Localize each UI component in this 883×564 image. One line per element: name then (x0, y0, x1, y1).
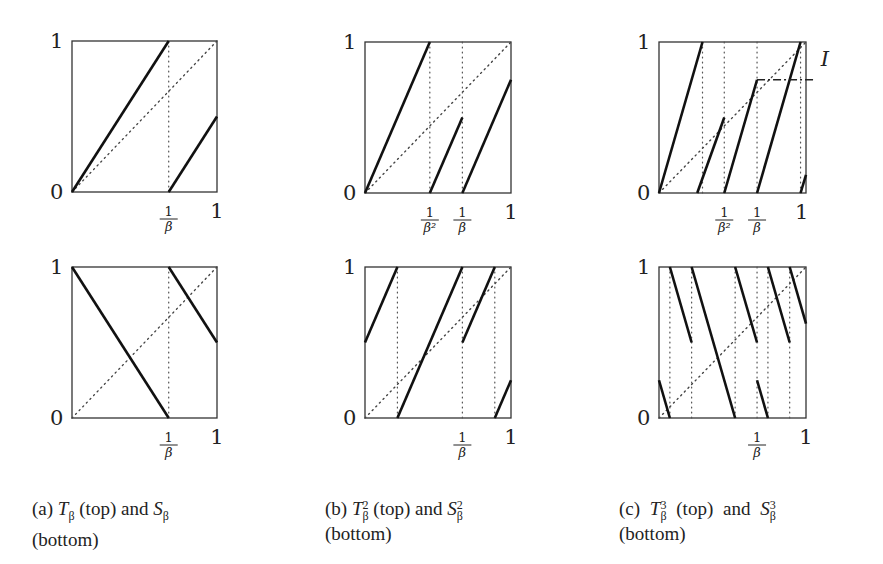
x-tick-label: 1 (795, 200, 808, 224)
caption-tag: (b) (325, 498, 347, 519)
caption-subscript: β (163, 509, 169, 523)
x-tick-fraction: 1β (160, 430, 178, 460)
x-tick-numerator: 1 (753, 430, 761, 445)
caption-c: (c) T3β (top) and S3β (bottom) (619, 497, 859, 546)
caption-subscript: β (457, 511, 463, 522)
plot-c-bottom: 011β1 (637, 255, 813, 460)
map-branch (670, 267, 692, 343)
y-tick-label: 1 (343, 255, 356, 279)
caption-tag: (c) (619, 498, 640, 519)
map-branch (724, 80, 757, 193)
figure-canvas: 011β1011β²1β1I011β²1β1011β1011β1011β1 (0, 0, 883, 470)
plot-c-top: I011β²1β1 (637, 30, 830, 235)
interval-label: I (820, 47, 830, 71)
x-tick-label: 1 (504, 200, 517, 224)
y-tick-label: 1 (50, 29, 63, 53)
map-branch (801, 175, 806, 193)
caption-subscript: β (660, 511, 666, 522)
identity-diagonal (72, 267, 217, 418)
x-tick-numerator: 1 (165, 204, 173, 219)
x-tick-fraction: 1β (453, 205, 471, 235)
map-branch (692, 267, 736, 418)
map-branch (397, 267, 462, 418)
identity-diagonal (72, 41, 217, 192)
map-branch (757, 42, 801, 193)
caption-text: (bottom) (32, 529, 99, 550)
y-tick-label: 1 (343, 30, 356, 54)
x-tick-denominator: β (752, 445, 761, 460)
x-tick-denominator: β (164, 219, 173, 234)
map-branch (768, 267, 790, 343)
y-tick-label: 1 (50, 255, 63, 279)
x-tick-denominator: β² (717, 220, 731, 235)
map-branch (72, 41, 169, 192)
x-tick-numerator: 1 (720, 205, 728, 220)
map-branch (72, 267, 169, 418)
x-tick-denominator: β² (422, 220, 436, 235)
map-branch (169, 267, 217, 343)
x-tick-fraction: 1β (160, 204, 178, 234)
x-tick-label: 1 (504, 425, 517, 449)
caption-subscript: β (68, 509, 74, 523)
y-tick-label: 0 (50, 406, 63, 430)
caption-text: (top) and (676, 498, 750, 519)
y-tick-label: 0 (343, 406, 356, 430)
x-tick-label: 1 (799, 425, 812, 449)
y-tick-label: 1 (637, 30, 650, 54)
caption-text: (top) and (79, 498, 148, 519)
map-branch (462, 80, 511, 193)
caption-subscript: β (770, 511, 776, 522)
x-tick-denominator: β (458, 220, 467, 235)
plot-a-top: 011β1 (50, 29, 224, 234)
plot-b-bottom: 011β1 (343, 255, 518, 460)
identity-diagonal (365, 42, 511, 193)
x-tick-fraction: 1β² (421, 205, 439, 235)
caption-symbol: T (58, 498, 69, 519)
x-tick-fraction: 1β² (715, 205, 733, 235)
y-tick-label: 0 (637, 181, 650, 205)
x-tick-label: 1 (210, 199, 223, 223)
x-tick-fraction: 1β (748, 430, 766, 460)
caption-tag: (a) (32, 498, 53, 519)
plots-group: 011β1011β²1β1I011β²1β1011β1011β1011β1 (50, 29, 830, 460)
y-tick-label: 0 (637, 406, 650, 430)
x-tick-denominator: β (752, 220, 761, 235)
x-tick-numerator: 1 (753, 205, 761, 220)
y-tick-label: 1 (637, 255, 650, 279)
x-tick-numerator: 1 (165, 430, 173, 445)
x-tick-numerator: 1 (458, 205, 466, 220)
map-branch (462, 267, 494, 343)
map-branch (735, 267, 757, 343)
map-branch (697, 118, 724, 194)
caption-text: (top) and (373, 498, 442, 519)
y-tick-label: 0 (343, 181, 356, 205)
map-branch (365, 267, 397, 343)
x-tick-numerator: 1 (426, 205, 434, 220)
x-tick-numerator: 1 (458, 430, 466, 445)
map-branch (659, 380, 670, 418)
caption-b: (b) T2β (top) and S2β (bottom) (325, 497, 555, 546)
caption-text: (bottom) (325, 523, 392, 544)
plot-a-bottom: 011β1 (50, 255, 224, 460)
caption-text: (bottom) (619, 523, 686, 544)
caption-symbol: T (352, 498, 363, 519)
caption-symbol: S (153, 498, 163, 519)
identity-diagonal (659, 267, 806, 418)
caption-symbol: S (447, 498, 457, 519)
x-tick-label: 1 (210, 425, 223, 449)
x-tick-fraction: 1β (453, 430, 471, 460)
x-tick-denominator: β (458, 445, 467, 460)
plot-b-top: 011β²1β1 (343, 30, 518, 235)
caption-symbol: S (760, 498, 770, 519)
x-tick-denominator: β (164, 445, 173, 460)
caption-symbol: T (650, 498, 661, 519)
map-branch (169, 117, 217, 193)
map-branch (757, 380, 768, 418)
caption-a: (a) Tβ (top) and Sβ (bottom) (32, 497, 252, 552)
x-tick-fraction: 1β (748, 205, 766, 235)
y-tick-label: 0 (50, 180, 63, 204)
map-branch (365, 42, 430, 193)
caption-subscript: β (362, 511, 368, 522)
map-branch (430, 118, 463, 194)
map-branch (495, 380, 511, 418)
